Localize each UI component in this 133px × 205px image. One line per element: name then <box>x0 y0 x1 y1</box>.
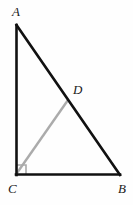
vertex-label-a: A <box>12 5 20 18</box>
geometry-figure: A D C B <box>0 0 133 205</box>
vertex-label-b: B <box>118 182 126 195</box>
segment-cd <box>17 100 68 173</box>
vertex-label-d: D <box>73 83 82 96</box>
figure-canvas <box>0 0 133 205</box>
vertex-label-c: C <box>8 182 17 195</box>
